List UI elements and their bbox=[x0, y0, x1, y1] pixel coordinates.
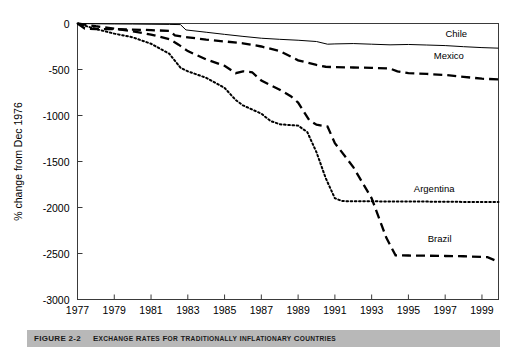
x-axis-tick-label: 1999 bbox=[470, 304, 494, 316]
y-axis-tick-label: -1000 bbox=[43, 110, 70, 122]
x-axis-tick-label: 1995 bbox=[397, 304, 421, 316]
x-axis-tick-label: 1979 bbox=[103, 304, 127, 316]
x-axis-tick-label: 1987 bbox=[250, 304, 274, 316]
x-axis-tick-label: 1981 bbox=[139, 304, 163, 316]
figure-caption-title: EXCHANGE RATES FOR TRADITIONALLY INFLATI… bbox=[93, 334, 336, 343]
x-axis-tick-label: 1997 bbox=[434, 304, 458, 316]
series-label-brazil: Brazil bbox=[428, 233, 452, 244]
x-axis-tick-label: 1977 bbox=[66, 304, 90, 316]
y-axis-title: % change from Dec 1976 bbox=[12, 102, 24, 221]
exchange-rate-line-chart: 0-500-1000-1500-2000-2500-30001977197919… bbox=[0, 0, 514, 358]
y-axis-tick-label: -500 bbox=[48, 64, 69, 76]
figure-caption-number: FIGURE 2-2 bbox=[34, 334, 81, 343]
series-label-chile: Chile bbox=[445, 28, 467, 39]
plot-frame bbox=[78, 24, 499, 300]
series-label-argentina: Argentina bbox=[414, 183, 455, 194]
x-axis-tick-label: 1989 bbox=[286, 304, 310, 316]
figure-caption-bar: FIGURE 2-2 EXCHANGE RATES FOR TRADITIONA… bbox=[27, 330, 500, 347]
y-axis-tick-label: -1500 bbox=[43, 156, 70, 168]
series-label-mexico: Mexico bbox=[434, 50, 464, 61]
series-line-chile bbox=[78, 24, 499, 49]
x-axis-tick-label: 1993 bbox=[360, 304, 384, 316]
y-axis-tick-label: 0 bbox=[64, 18, 70, 30]
y-axis-tick-label: -2000 bbox=[43, 202, 70, 214]
y-axis-tick-label: -2500 bbox=[43, 248, 70, 260]
x-axis-tick-label: 1983 bbox=[176, 304, 200, 316]
x-axis-tick-label: 1991 bbox=[323, 304, 347, 316]
figure-container: 0-500-1000-1500-2000-2500-30001977197919… bbox=[0, 0, 514, 358]
x-axis-tick-label: 1985 bbox=[213, 304, 237, 316]
